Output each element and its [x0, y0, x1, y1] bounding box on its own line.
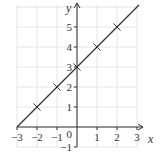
x-tick-label: 2 [114, 131, 120, 143]
y-tick-label: 2 [67, 81, 73, 93]
y-tick-label: −1 [60, 141, 72, 153]
x-axis-label: x [147, 132, 154, 146]
line-graph: −3−2−1123−1123450 x y [0, 0, 161, 159]
data-series [17, 5, 139, 127]
x-tick-label: −2 [31, 131, 43, 143]
y-tick-label: 4 [67, 41, 73, 53]
origin-label: 0 [67, 128, 73, 140]
x-tick-label: −3 [11, 131, 23, 143]
axes [17, 3, 143, 147]
y-axis-label: y [65, 1, 72, 15]
y-tick-label: 1 [67, 101, 73, 113]
x-tick-label: 1 [94, 131, 100, 143]
x-tick-label: 3 [134, 131, 140, 143]
y-tick-label: 3 [67, 61, 73, 73]
y-tick-label: 5 [67, 21, 73, 33]
